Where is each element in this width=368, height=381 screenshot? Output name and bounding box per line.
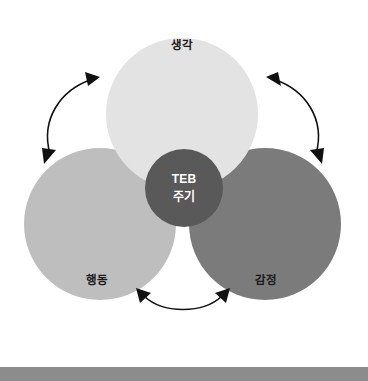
center-circle[interactable]	[145, 149, 223, 227]
diagram-page: 생각 행동 감정 TEB 주기	[0, 0, 368, 381]
teb-cycle-diagram: 생각 행동 감정 TEB 주기	[0, 0, 368, 381]
arrow-right-head-top	[266, 72, 281, 86]
arrow-left-head-bottom	[42, 148, 56, 164]
arrow-left-path	[48, 80, 90, 154]
arrow-right-path	[276, 80, 318, 154]
diagram-canvas: 생각 행동 감정 TEB 주기	[0, 0, 368, 381]
arrow-right-head-bottom	[310, 148, 324, 164]
arrow-left-head-top	[85, 72, 100, 86]
bottom-scroll-bar[interactable]	[0, 367, 368, 381]
center-label-line2: 주기	[173, 189, 195, 204]
node-label-thought: 생각	[171, 38, 193, 51]
arrow-bottom	[136, 288, 230, 310]
center-label-line1: TEB	[172, 172, 197, 186]
arrow-bottom-path	[144, 296, 222, 310]
node-label-emotion: 감정	[255, 273, 277, 286]
node-label-behavior: 행동	[86, 273, 108, 286]
